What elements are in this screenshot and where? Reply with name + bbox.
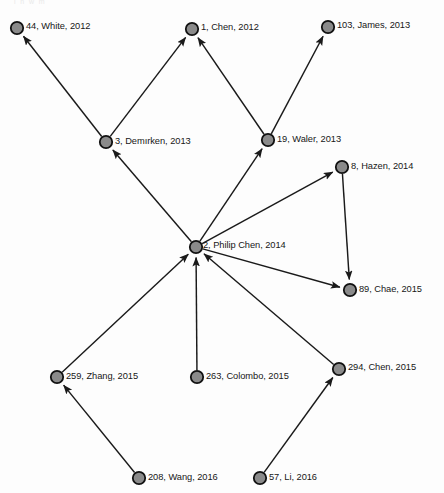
graph-edge (342, 174, 349, 280)
graph-node[interactable]: 103, James, 2013 (322, 20, 410, 33)
node-label: 259, Zhang, 2015 (66, 371, 138, 381)
node-label: 1, Chen, 2012 (201, 22, 259, 32)
node-circle-icon[interactable] (11, 22, 23, 34)
graph-node[interactable]: 19, Waler, 2013 (262, 134, 341, 146)
graph-edge (196, 258, 197, 371)
graph-edge (204, 254, 334, 365)
graph-node[interactable]: 294, Chen, 2015 (333, 362, 416, 375)
node-label: 2, Philip Chen, 2014 (203, 240, 286, 250)
graph-canvas: 44, White, 20121, Chen, 2012103, James, … (0, 0, 444, 493)
node-label: 263, Colombo, 2015 (206, 371, 289, 381)
graph-edge (203, 249, 340, 287)
node-circle-icon[interactable] (336, 161, 348, 173)
graph-node[interactable]: 259, Zhang, 2015 (51, 371, 138, 383)
graph-node[interactable]: 1, Chen, 2012 (186, 22, 259, 35)
node-label: 89, Chae, 2015 (359, 284, 422, 294)
node-circle-icon[interactable] (344, 284, 356, 296)
graph-edge (198, 38, 264, 135)
graph-node[interactable]: 44, White, 2012 (11, 21, 91, 34)
node-label: 44, White, 2012 (26, 21, 90, 31)
node-circle-icon[interactable] (51, 371, 63, 383)
node-circle-icon[interactable] (262, 134, 274, 146)
node-label: 208, Wang, 2016 (148, 472, 218, 482)
edges-layer (23, 36, 349, 472)
graph-node[interactable]: 89, Chae, 2015 (344, 284, 422, 296)
node-circle-icon[interactable] (254, 472, 266, 484)
graph-node[interactable]: 263, Colombo, 2015 (191, 371, 289, 383)
node-label: 19, Waler, 2013 (277, 134, 341, 144)
node-circle-icon[interactable] (191, 371, 203, 383)
graph-node[interactable]: 2, Philip Chen, 2014 (190, 240, 286, 253)
graph-node[interactable]: 3, Demırken, 2013 (100, 136, 191, 148)
node-circle-icon[interactable] (186, 23, 198, 35)
graph-edge (110, 37, 185, 136)
node-circle-icon[interactable] (133, 472, 145, 484)
graph-edge (23, 36, 101, 136)
graph-edge (113, 150, 192, 242)
citation-network-figure: l n w m 44, White, 20121, Chen, 2012103,… (0, 0, 444, 493)
graph-node[interactable]: 208, Wang, 2016 (133, 472, 218, 484)
graph-edge (62, 254, 188, 372)
graph-edge (271, 36, 323, 134)
graph-node[interactable]: 57, Li, 2016 (254, 472, 317, 484)
node-circle-icon[interactable] (322, 21, 334, 33)
graph-edge (64, 385, 135, 472)
graph-node[interactable]: 8, Hazen, 2014 (336, 161, 414, 173)
node-circle-icon[interactable] (333, 363, 345, 375)
graph-edge (264, 378, 333, 473)
node-label: 294, Chen, 2015 (348, 362, 416, 372)
node-circle-icon[interactable] (190, 241, 202, 253)
node-label: 103, James, 2013 (337, 20, 410, 30)
node-label: 8, Hazen, 2014 (351, 161, 413, 171)
node-label: 3, Demırken, 2013 (115, 136, 191, 146)
node-label: 57, Li, 2016 (269, 472, 317, 482)
node-circle-icon[interactable] (100, 136, 112, 148)
